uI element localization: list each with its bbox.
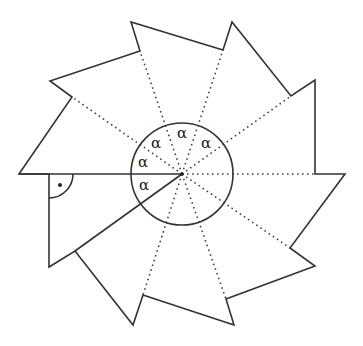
dotted-spoke xyxy=(72,97,182,174)
alpha-angle-label: α xyxy=(139,176,149,194)
dotted-spoke xyxy=(182,50,223,174)
dotted-spoke xyxy=(182,96,291,174)
alpha-angle-label: α xyxy=(151,134,161,152)
solid-spoke xyxy=(75,174,182,251)
alpha-angle-label: α xyxy=(138,153,148,171)
alpha-angle-label: α xyxy=(177,124,187,142)
alpha-angle-label: α xyxy=(201,134,211,152)
triangle-spiral-diagram: ααααα xyxy=(0,0,363,346)
right-angle-dot xyxy=(58,183,62,187)
center-point xyxy=(180,172,184,176)
dotted-spoke xyxy=(182,174,226,299)
solid-spokes xyxy=(19,174,182,251)
dotted-spoke xyxy=(182,174,290,248)
